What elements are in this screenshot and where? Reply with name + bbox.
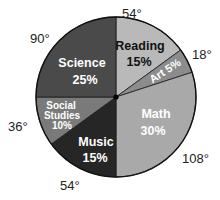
slice-pct-science: 25% xyxy=(72,73,97,87)
degree-label-social: 36° xyxy=(8,119,28,134)
slice-pct-reading: 15% xyxy=(126,55,151,69)
slice-label-music: Music xyxy=(78,135,113,149)
slice-label-science: Science xyxy=(58,56,105,70)
degree-label-music: 54° xyxy=(60,178,80,193)
slice-pct-social: 10% xyxy=(52,120,72,131)
degree-label-math: 108° xyxy=(182,151,209,166)
pie-chart: Reading 15% Art 5% Math 30% Music 15% So… xyxy=(0,0,220,200)
pie-center-dot xyxy=(113,94,118,99)
degree-label-reading: 54° xyxy=(122,6,142,21)
degree-label-art: 18° xyxy=(192,47,212,62)
slice-label-reading: Reading xyxy=(115,39,164,53)
degree-label-science: 90° xyxy=(30,31,50,46)
slice-pct-math: 30% xyxy=(140,124,165,138)
slice-label-math: Math xyxy=(141,107,170,121)
slice-pct-music: 15% xyxy=(82,151,107,165)
